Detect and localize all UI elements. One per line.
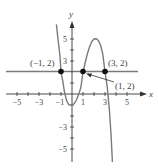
x-tick-label: −3 — [35, 98, 44, 107]
y-tick-label: 3 — [63, 57, 67, 66]
y-tick-label: −5 — [58, 145, 67, 154]
x-tick-label: 5 — [125, 98, 129, 107]
x-tick-label: −5 — [13, 98, 22, 107]
cubic-curve — [56, 24, 112, 162]
graph: x −5 −3 −1 1 3 5 y 5 3 −3 −5 (−1, — [0, 0, 158, 168]
y-axis: y 5 3 −3 −5 — [58, 9, 74, 162]
point-label: (1, 2) — [115, 81, 135, 91]
x-axis-arrow-icon — [140, 92, 147, 97]
point-marker — [58, 69, 64, 75]
y-axis-arrow-icon — [70, 21, 75, 28]
y-tick-label: −3 — [58, 123, 67, 132]
point-marker — [102, 69, 108, 75]
label-pointer-line — [88, 74, 114, 82]
x-axis-label: x — [148, 89, 153, 99]
point-marker — [80, 69, 86, 75]
y-axis-label: y — [68, 9, 73, 19]
point-label: (−1, 2) — [30, 58, 55, 68]
x-tick-label: 3 — [103, 98, 107, 107]
x-tick-label: 1 — [81, 98, 85, 107]
y-tick-label: 5 — [63, 35, 67, 44]
x-tick-label: −1 — [56, 98, 65, 107]
pointer-arrow-icon — [86, 74, 92, 78]
point-label: (3, 2) — [108, 58, 128, 68]
